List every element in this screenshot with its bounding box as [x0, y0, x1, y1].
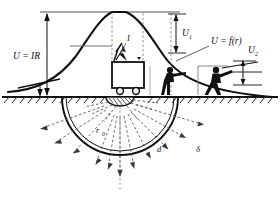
label-touch-voltage-subscript: 1 — [189, 34, 192, 40]
diagram-figure: U = IR U 1 U = f(r) U 2 — [0, 0, 280, 197]
label-ground-radius-subscript: 0 — [102, 131, 105, 137]
head — [167, 67, 173, 73]
canvas-background — [0, 0, 280, 197]
vehicle-wheel-front — [117, 88, 124, 95]
label-step-voltage-subscript: 2 — [255, 51, 258, 57]
vehicle-wheel-rear — [133, 88, 140, 95]
label-potential-function: U = f(r) — [211, 36, 242, 47]
label-total-voltage: U = IR — [13, 51, 40, 61]
ground-potential-diagram: U = IR U 1 U = f(r) U 2 — [0, 0, 280, 197]
head — [213, 67, 219, 73]
vehicle-body — [112, 62, 144, 88]
